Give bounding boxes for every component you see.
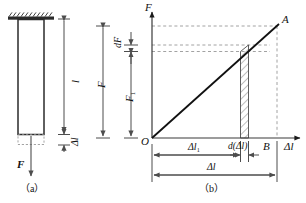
panel-a-elongation-label: Δl xyxy=(70,137,80,146)
panel-b-force-increment-label: dF xyxy=(113,37,123,48)
force-partial-symbol: F xyxy=(123,95,135,102)
panel-b-point-a-label: A xyxy=(282,14,289,25)
figure-svg xyxy=(0,0,306,203)
panel-b-elong-increment-label: d(Δl) xyxy=(228,142,247,152)
elong-partial-subscript: 1 xyxy=(197,146,200,153)
panel-b-caption: （b） xyxy=(199,184,224,194)
panel-a-length-label: l xyxy=(70,80,81,83)
panel-b-x-axis-label: Δl xyxy=(284,141,294,152)
elementary-work-strip xyxy=(241,45,249,138)
panel-a-caption: （a） xyxy=(20,184,44,194)
panel-a-graphics xyxy=(8,12,70,176)
bar-body xyxy=(18,20,44,135)
panel-b-force-total-label: F xyxy=(96,81,107,88)
panel-b-force-partial-label: F1 xyxy=(124,92,137,102)
fixed-support-icon xyxy=(8,12,54,19)
elong-partial-symbol: Δl xyxy=(188,141,197,152)
figure-container: l Δl F （a） F Δl O A B F F1 dF Δl1 d(Δl) … xyxy=(0,0,306,203)
guide-dashed-lines xyxy=(152,26,278,52)
force-partial-subscript: 1 xyxy=(129,92,136,95)
panel-b-point-b-label: B xyxy=(263,141,270,152)
panel-b-origin-label: O xyxy=(141,136,149,147)
panel-b-elong-total-label: Δl xyxy=(207,162,216,172)
y-dimension-dF xyxy=(124,32,138,64)
length-dimension-l xyxy=(58,19,70,135)
force-elongation-line xyxy=(152,24,279,138)
panel-b-y-axis-label: F xyxy=(145,2,152,13)
panel-a-force-label: F xyxy=(17,159,24,170)
panel-b-elong-partial-label: Δl1 xyxy=(188,142,200,153)
